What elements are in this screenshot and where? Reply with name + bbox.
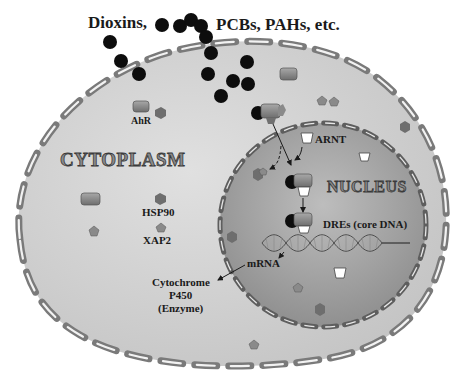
hsp90-label: HSP90 (142, 206, 175, 218)
ahr-protein (261, 104, 280, 118)
arnt-protein (334, 268, 346, 278)
ligand-dot (132, 67, 146, 81)
ahr-protein (294, 174, 312, 187)
ahr-label: AhR (131, 115, 152, 126)
ligand-dot (226, 74, 240, 88)
title-pcbs-pahs: PCBs, PAHs, etc. (216, 15, 340, 34)
ahr-protein (294, 213, 312, 226)
arnt-protein (298, 187, 310, 196)
ligand-dot (114, 54, 128, 68)
mrna-label: mRNA (247, 257, 280, 269)
title-dioxins: Dioxins, (88, 13, 147, 32)
xap2-label: XAP2 (143, 234, 172, 246)
ahr-protein (133, 101, 149, 112)
ahr-protein (81, 193, 100, 205)
cytochrome-label-line2: P450 (169, 289, 193, 301)
ahr-signaling-diagram: Dioxins, PCBs, PAHs, etc. CYTOPLASM NUCL… (0, 0, 469, 385)
ligand-dot (214, 89, 228, 103)
ligand-dot (199, 30, 213, 44)
ligand-dot (240, 55, 254, 69)
ligand-dot (204, 46, 218, 60)
ahr-protein (280, 68, 297, 80)
nucleus-label: NUCLEUS (327, 178, 407, 195)
arnt-protein (359, 153, 370, 161)
ligand-dot (241, 77, 255, 91)
cytoplasm-label: CYTOPLASM (60, 149, 186, 170)
ligand-dot (155, 18, 169, 32)
ligand-dot (201, 67, 215, 81)
arnt-protein (298, 226, 310, 233)
arnt-label: ARNT (315, 133, 347, 145)
arnt-protein (301, 133, 313, 143)
cytochrome-label-line1: Cytochrome (152, 276, 210, 288)
ligand-dot (103, 35, 117, 49)
dres-label: DREs (core DNA) (323, 218, 407, 231)
cytochrome-label-line3: (Enzyme) (158, 302, 204, 315)
